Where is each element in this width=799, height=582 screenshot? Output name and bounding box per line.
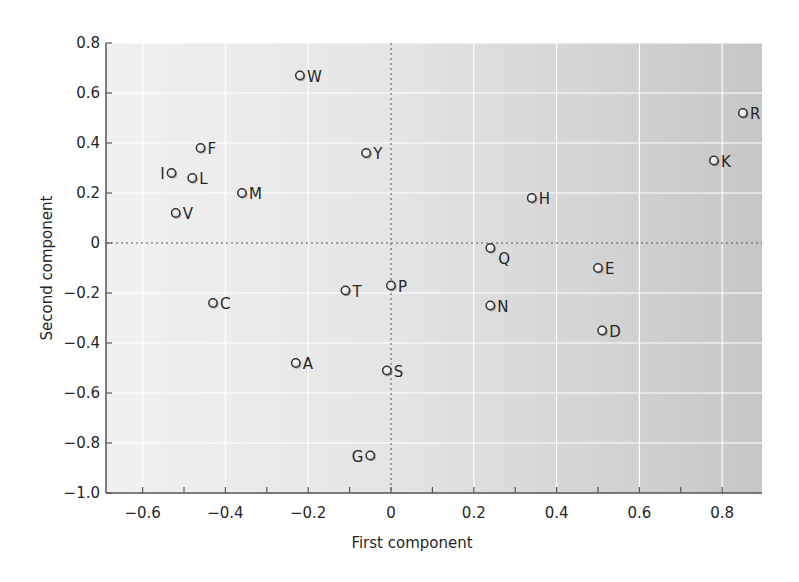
point-label: L [199, 170, 208, 188]
point-label: S [394, 363, 404, 381]
y-tick-label: −0.2 [64, 284, 100, 302]
scatter-marker [196, 144, 204, 152]
scatter-marker [387, 281, 395, 289]
point-label: A [303, 355, 314, 373]
scatter-marker [188, 174, 196, 182]
scatter-marker [528, 194, 536, 202]
point-label: E [605, 260, 614, 278]
scatter-marker [238, 189, 246, 197]
point-label: G [352, 448, 364, 466]
scatter-marker [366, 451, 374, 459]
point-label: F [208, 140, 217, 158]
point-label: Q [498, 250, 510, 268]
x-tick-label: 0.8 [710, 504, 734, 522]
x-tick-label: 0.6 [627, 504, 651, 522]
x-tick-label: 0.4 [545, 504, 569, 522]
y-axis-title: Second component [38, 195, 56, 340]
point-label: P [398, 278, 407, 296]
scatter-chart: First component Second component −0.6−0.… [0, 0, 799, 582]
point-label: M [249, 185, 262, 203]
scatter-marker [486, 244, 494, 252]
point-label: V [183, 205, 194, 223]
y-tick-label: −0.6 [64, 384, 100, 402]
scatter-marker [172, 209, 180, 217]
y-tick-label: 0.4 [76, 134, 100, 152]
point-label: N [497, 298, 508, 316]
scatter-marker [341, 286, 349, 294]
x-tick-label: 0.2 [462, 504, 486, 522]
point-label: R [750, 105, 760, 123]
scatter-marker [710, 156, 718, 164]
x-tick-label: −0.2 [290, 504, 326, 522]
scatter-marker [598, 326, 606, 334]
chart-svg: −0.6−0.4−0.200.20.40.60.8−1.0−0.8−0.6−0.… [0, 0, 799, 582]
y-tick-label: 0.2 [76, 184, 100, 202]
y-tick-label: 0.8 [76, 34, 100, 52]
y-tick-label: −0.8 [64, 434, 100, 452]
scatter-marker [209, 299, 217, 307]
y-tick-label: −0.4 [64, 334, 100, 352]
point-label: H [539, 190, 550, 208]
x-axis-title: First component [351, 534, 472, 552]
plot-background [106, 43, 762, 493]
x-tick-label: 0 [386, 504, 396, 522]
scatter-marker [167, 169, 175, 177]
y-tick-label: −1.0 [64, 484, 100, 502]
x-tick-label: −0.6 [124, 504, 160, 522]
y-tick-label: 0 [90, 234, 100, 252]
point-label: C [220, 295, 230, 313]
y-tick-label: 0.6 [76, 84, 100, 102]
scatter-marker [383, 366, 391, 374]
scatter-marker [739, 109, 747, 117]
scatter-marker [594, 264, 602, 272]
point-label: I [160, 165, 164, 183]
scatter-marker [486, 301, 494, 309]
point-label: K [721, 153, 732, 171]
point-label: W [307, 68, 322, 86]
point-label: Y [372, 145, 383, 163]
scatter-marker [292, 359, 300, 367]
scatter-marker [362, 149, 370, 157]
x-tick-label: −0.4 [207, 504, 243, 522]
point-label: T [351, 283, 362, 301]
point-label: D [609, 323, 621, 341]
scatter-marker [296, 71, 304, 79]
